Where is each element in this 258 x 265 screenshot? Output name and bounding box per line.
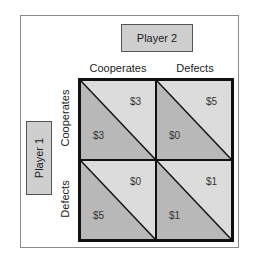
- player-1-payoff: $0: [169, 130, 180, 141]
- payoff-matrix: $3 $3 $5 $0 $0 $5 $1 $1: [78, 78, 234, 242]
- player-1-payoff: $1: [169, 210, 180, 221]
- column-label-cooperates: Cooperates: [79, 62, 157, 74]
- payoff-cell: $3 $3: [80, 80, 156, 160]
- row-label-cooperates: Cooperates: [55, 79, 75, 157]
- player-2-payoff: $1: [206, 176, 217, 187]
- row-label-defects: Defects: [55, 160, 75, 238]
- payoff-cell: $1 $1: [156, 160, 232, 240]
- player-2-label: Player 2: [137, 32, 177, 44]
- player-2-payoff: $0: [130, 176, 141, 187]
- player-1-payoff: $5: [93, 210, 104, 221]
- payoff-cell: $0 $5: [80, 160, 156, 240]
- player-2-label-box: Player 2: [121, 24, 193, 52]
- player-1-payoff: $3: [93, 130, 104, 141]
- player-1-label: Player 1: [33, 138, 45, 178]
- player-2-payoff: $3: [130, 96, 141, 107]
- player-1-label-box: Player 1: [26, 121, 52, 195]
- payoff-cell: $5 $0: [156, 80, 232, 160]
- player-2-payoff: $5: [206, 96, 217, 107]
- column-label-defects: Defects: [156, 62, 234, 74]
